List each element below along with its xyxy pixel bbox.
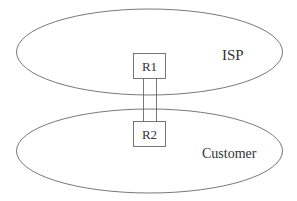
node-r2: R2 <box>134 122 166 147</box>
isp-label: ISP <box>222 47 244 63</box>
r2-label: R2 <box>142 127 157 142</box>
node-r1: R1 <box>134 54 166 79</box>
customer-label: Customer <box>202 146 257 161</box>
diagram-canvas: ISP Customer R1 R2 <box>0 0 297 201</box>
link-r1-r2 <box>144 79 157 121</box>
r1-label: R1 <box>142 59 157 74</box>
region-isp: ISP <box>17 9 283 95</box>
